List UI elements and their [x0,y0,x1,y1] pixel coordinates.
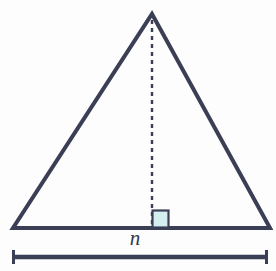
right-angle-marker-icon [153,211,169,228]
geometry-figure: n [0,0,276,271]
triangle-outline [13,14,270,228]
base-measure-bar [12,250,268,264]
base-length-label: n [0,226,276,250]
base-length-label-text: n [130,226,141,250]
